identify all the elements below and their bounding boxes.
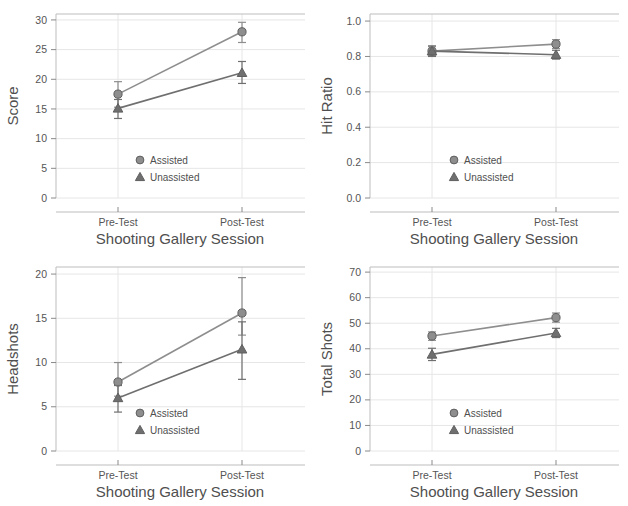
legend-marker-circle-icon xyxy=(136,156,144,164)
x-axis-ticks: Pre-TestPost-Test xyxy=(412,207,578,228)
figure-panel-grid: 051015202530Pre-TestPost-TestScoreShooti… xyxy=(0,0,628,506)
data-point-marker xyxy=(237,344,247,353)
y-axis-title: Score xyxy=(4,86,21,125)
data-point-marker xyxy=(552,40,560,48)
y-tick-label: 10 xyxy=(35,132,47,144)
legend-label-unassisted: Unassisted xyxy=(464,425,513,436)
y-tick-label: 0.6 xyxy=(346,85,361,97)
x-axis-title: Shooting Gallery Session xyxy=(410,483,578,500)
y-tick-label: 30 xyxy=(35,14,47,26)
y-tick-label: 0 xyxy=(41,445,47,457)
y-tick-label: 10 xyxy=(35,356,47,368)
legend-marker-circle-icon xyxy=(450,156,458,164)
y-tick-label: 10 xyxy=(349,419,361,431)
data-point-marker xyxy=(552,314,560,322)
y-tick-label: 20 xyxy=(35,268,47,280)
legend-label-assisted: Assisted xyxy=(150,408,188,419)
legend: AssistedUnassisted xyxy=(449,155,513,183)
x-tick-label: Pre-Test xyxy=(98,216,137,228)
y-tick-label: 0 xyxy=(355,445,361,457)
y-tick-label: 5 xyxy=(41,162,47,174)
y-tick-label: 20 xyxy=(349,393,361,405)
y-tick-label: 1.0 xyxy=(346,15,361,27)
legend-marker-circle-icon xyxy=(136,409,144,417)
x-tick-label: Pre-Test xyxy=(412,216,451,228)
y-tick-label: 15 xyxy=(35,103,47,115)
x-axis-ticks: Pre-TestPost-Test xyxy=(412,460,578,481)
x-tick-label: Post-Test xyxy=(534,469,578,481)
y-tick-label: 40 xyxy=(349,342,361,354)
x-axis-title: Shooting Gallery Session xyxy=(410,230,578,247)
legend-label-assisted: Assisted xyxy=(464,155,502,166)
data-point-marker xyxy=(237,68,247,77)
x-tick-label: Pre-Test xyxy=(98,469,137,481)
y-axis-title: Hit Ratio xyxy=(318,77,335,135)
legend-marker-circle-icon xyxy=(450,409,458,417)
gridlines xyxy=(370,14,619,198)
y-tick-label: 0.8 xyxy=(346,50,361,62)
data-point-marker xyxy=(238,309,246,317)
legend: AssistedUnassisted xyxy=(449,408,513,436)
series-unassisted xyxy=(113,61,247,118)
y-tick-label: 30 xyxy=(349,368,361,380)
y-tick-label: 60 xyxy=(349,291,361,303)
y-tick-label: 0.4 xyxy=(346,121,361,133)
x-axis-title: Shooting Gallery Session xyxy=(96,230,264,247)
x-tick-label: Post-Test xyxy=(220,216,264,228)
data-point-marker xyxy=(114,378,122,386)
gridlines xyxy=(56,14,305,198)
chart-panel-hit_ratio: 0.00.20.40.60.81.0Pre-TestPost-TestHit R… xyxy=(314,0,628,253)
y-tick-label: 25 xyxy=(35,43,47,55)
gridlines xyxy=(56,267,305,451)
x-tick-label: Post-Test xyxy=(534,216,578,228)
y-tick-label: 70 xyxy=(349,266,361,278)
gridlines xyxy=(370,267,619,451)
legend-marker-triangle-icon xyxy=(135,172,144,180)
legend-marker-triangle-icon xyxy=(449,425,458,433)
y-axis-title: Total Shots xyxy=(318,322,335,396)
legend-label-unassisted: Unassisted xyxy=(150,425,199,436)
y-tick-label: 0 xyxy=(41,192,47,204)
chart-panel-headshots: 05101520Pre-TestPost-TestHeadshotsShooti… xyxy=(0,253,314,506)
series-assisted xyxy=(114,22,246,107)
legend-label-assisted: Assisted xyxy=(464,408,502,419)
y-tick-label: 20 xyxy=(35,73,47,85)
x-tick-label: Pre-Test xyxy=(412,469,451,481)
legend-label-assisted: Assisted xyxy=(150,155,188,166)
y-axis-ticks: 010203040506070 xyxy=(349,266,370,457)
y-axis-title: Headshots xyxy=(4,323,21,395)
data-point-marker xyxy=(428,332,436,340)
legend-label-unassisted: Unassisted xyxy=(464,172,513,183)
y-tick-label: 0.0 xyxy=(346,192,361,204)
series-unassisted xyxy=(113,322,247,412)
legend-marker-triangle-icon xyxy=(135,425,144,433)
legend: AssistedUnassisted xyxy=(135,408,199,436)
legend-label-unassisted: Unassisted xyxy=(150,172,199,183)
chart-panel-total_shots: 010203040506070Pre-TestPost-TestTotal Sh… xyxy=(314,253,628,506)
data-point-marker xyxy=(551,328,561,337)
x-axis-title: Shooting Gallery Session xyxy=(96,483,264,500)
x-axis-ticks: Pre-TestPost-Test xyxy=(98,207,264,228)
y-axis-ticks: 05101520 xyxy=(35,268,56,457)
chart-panel-score: 051015202530Pre-TestPost-TestScoreShooti… xyxy=(0,0,314,253)
y-tick-label: 50 xyxy=(349,317,361,329)
x-axis-ticks: Pre-TestPost-Test xyxy=(98,460,264,481)
y-tick-label: 5 xyxy=(41,400,47,412)
x-tick-label: Post-Test xyxy=(220,469,264,481)
legend-marker-triangle-icon xyxy=(449,172,458,180)
data-point-marker xyxy=(238,28,246,36)
y-tick-label: 0.2 xyxy=(346,156,361,168)
y-axis-ticks: 051015202530 xyxy=(35,14,56,204)
series-assisted xyxy=(114,278,246,397)
data-point-marker xyxy=(114,90,122,98)
y-axis-ticks: 0.00.20.40.60.81.0 xyxy=(346,15,370,204)
y-tick-label: 15 xyxy=(35,312,47,324)
